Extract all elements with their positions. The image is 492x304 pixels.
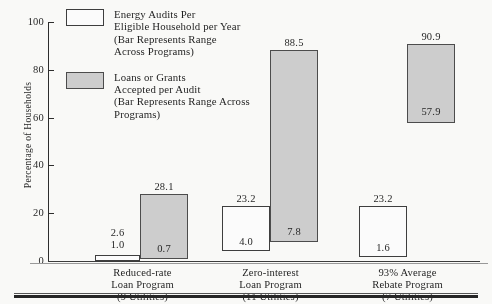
legend-swatch-white-icon	[66, 9, 104, 26]
legend-line-4: Programs)	[114, 108, 250, 120]
y-tick-100	[48, 22, 54, 23]
y-tick-60	[48, 118, 54, 119]
category-label-zero-interest: Zero-interest Loan Program (11 Utilities…	[203, 267, 338, 304]
bar-label-g3-gray-low: 57.9	[407, 106, 455, 117]
legend-item-energy-audits[interactable]: Energy Audits Per Eligible Household per…	[66, 8, 296, 58]
legend-line-1: Loans or Grants	[114, 71, 250, 83]
y-tick-80	[48, 70, 54, 71]
category-line-1: 93% Average	[340, 267, 475, 279]
x-axis-baseline	[48, 261, 480, 262]
category-line-2: Loan Program	[75, 279, 210, 291]
y-tick-40	[48, 165, 54, 166]
bar-label-g3-white-low: 1.6	[359, 242, 407, 253]
y-axis-line	[48, 22, 49, 262]
category-label-rebate-program: 93% Average Rebate Program (7 Utilities)	[340, 267, 475, 304]
bar-label-g2-white-low: 4.0	[222, 236, 270, 247]
y-axis-title: Percentage of Households	[23, 55, 33, 215]
category-line-2: Loan Program	[203, 279, 338, 291]
bar-label-g2-gray-low: 7.8	[270, 226, 318, 237]
legend-label-loans-grants: Loans or Grants Accepted per Audit (Bar …	[114, 71, 250, 121]
bar-label-g3-gray-high: 90.9	[407, 31, 455, 42]
bar-label-g1-white-low: 1.0	[95, 239, 140, 250]
legend-label-energy-audits: Energy Audits Per Eligible Household per…	[114, 8, 240, 58]
bottom-divider-thin	[14, 293, 478, 294]
category-line-2: Rebate Program	[340, 279, 475, 291]
legend-line-3: (Bar Represents Range	[114, 33, 240, 45]
bar-label-g1-gray-low: 0.7	[140, 243, 188, 254]
legend-item-loans-grants[interactable]: Loans or Grants Accepted per Audit (Bar …	[66, 71, 296, 121]
y-tick-label-100: 100	[4, 17, 44, 27]
category-label-reduced-rate: Reduced-rate Loan Program (9 Utilities)	[75, 267, 210, 304]
bar-label-g1-gray-high: 28.1	[140, 181, 188, 192]
x-axis-rule	[30, 263, 488, 264]
legend-line-2: Eligible Household per Year	[114, 20, 240, 32]
y-tick-label-0: 0	[4, 256, 44, 266]
y-tick-20	[48, 213, 54, 214]
legend-line-3: (Bar Represents Range Across	[114, 95, 250, 107]
bar-label-g1-white-high: 2.6	[95, 227, 140, 238]
category-line-1: Reduced-rate	[75, 267, 210, 279]
legend-line-2: Accepted per Audit	[114, 83, 250, 95]
legend-line-1: Energy Audits Per	[114, 8, 240, 20]
bottom-divider	[14, 295, 478, 298]
category-line-1: Zero-interest	[203, 267, 338, 279]
bar-chart: 100 80 60 40 20 0 Percentage of Househol…	[0, 0, 492, 304]
bar-label-g3-white-high: 23.2	[359, 193, 407, 204]
chart-legend: Energy Audits Per Eligible Household per…	[66, 8, 296, 133]
bar-label-g2-white-high: 23.2	[222, 193, 270, 204]
legend-line-4: Across Programs)	[114, 45, 240, 57]
legend-swatch-gray-icon	[66, 72, 104, 89]
